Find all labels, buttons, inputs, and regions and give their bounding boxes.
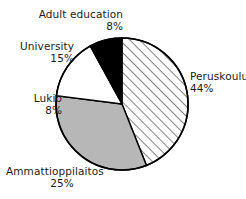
slice-label-adult-education-percent: 8% [30, 20, 123, 32]
slice-label-lukio: Lukio 8% [8, 92, 62, 117]
slice-label-lukio-name: Lukio [34, 92, 62, 104]
slice-label-peruskoulu-percent: 44% [190, 82, 246, 94]
slice-label-adult-education: Adult education 8% [30, 8, 123, 33]
pie-chart: Adult education 8% University 15% Lukio … [0, 0, 246, 199]
slice-label-university-name: University [20, 40, 74, 52]
slice-label-lukio-percent: 8% [8, 104, 62, 116]
slice-label-ammattioppilaitos: Ammattioppilaitos 25% [6, 165, 146, 190]
slice-label-adult-education-name: Adult education [39, 8, 123, 20]
slice-label-ammattioppilaitos-name: Ammattioppilaitos [6, 165, 104, 177]
slice-label-university-percent: 15% [8, 52, 74, 64]
slice-label-university: University 15% [8, 40, 74, 65]
slice-label-ammattioppilaitos-percent: 25% [6, 177, 118, 189]
slice-label-peruskoulu: Peruskoulu 44% [190, 70, 246, 95]
slice-label-peruskoulu-name: Peruskoulu [190, 70, 246, 82]
